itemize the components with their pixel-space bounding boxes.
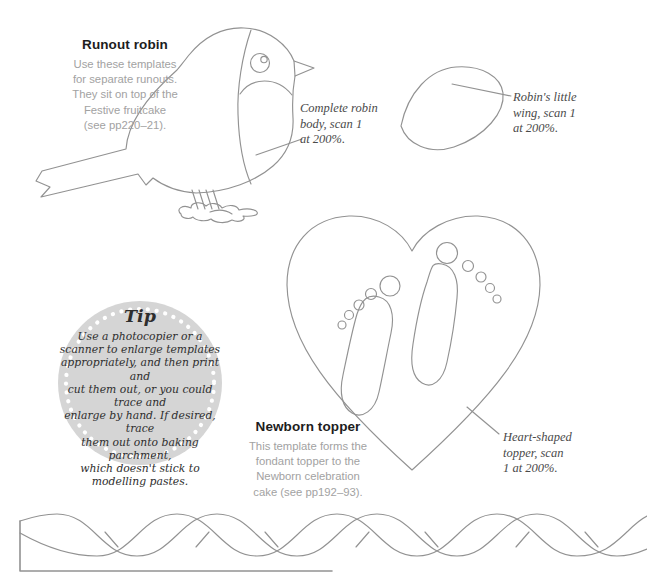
robin-eye	[251, 54, 270, 73]
rope-border-template	[20, 514, 647, 571]
baby-footprint-left	[338, 276, 400, 415]
caption-line: topper, scan	[503, 446, 593, 462]
description-line: Newborn celebration	[232, 469, 384, 484]
tip-line: them out onto baking parchment,	[52, 436, 228, 462]
description-line: (see pp220–21).	[50, 118, 200, 133]
caption-line: at 200%.	[300, 132, 410, 148]
robin-eye-highlight	[261, 56, 267, 62]
robin-beak-base-line	[294, 61, 295, 76]
baby-footprint-right	[412, 243, 501, 385]
caption-line: at 200%.	[513, 121, 603, 137]
leader-line-robin-body	[256, 139, 302, 155]
tip-line: scanner to enlarge templates	[52, 343, 228, 356]
caption-line: Heart-shaped	[503, 430, 593, 446]
tip-line: modelling pastes.	[52, 475, 228, 488]
tip-line: which doesn't stick to	[52, 462, 228, 475]
tip-title: Tip	[52, 306, 228, 326]
newborn-topper-description: This template forms the fondant topper t…	[232, 439, 384, 500]
wing-outline	[401, 67, 503, 150]
caption-line: body, scan 1	[300, 117, 410, 133]
runout-robin-heading: Runout robin	[50, 37, 200, 52]
description-line: cake (see pp192–93).	[232, 485, 384, 500]
tip-line: Use a photocopier or a	[52, 330, 228, 343]
caption-line: 1 at 200%.	[503, 461, 593, 477]
robin-wing-caption: Robin's little wing, scan 1 at 200%.	[513, 90, 603, 137]
tip-line: cut them out, or you could trace and	[52, 383, 228, 409]
caption-line: Robin's little	[513, 90, 603, 106]
description-line: This template forms the	[232, 439, 384, 454]
robin-face-divider-line	[238, 30, 251, 184]
newborn-topper-heading: Newborn topper	[232, 419, 384, 434]
description-line: Festive fruitcake	[50, 103, 200, 118]
robin-body-caption: Complete robin body, scan 1 at 200%.	[300, 101, 410, 148]
description-line: for separate runouts.	[50, 72, 200, 87]
description-line: They sit on top of the	[50, 87, 200, 102]
caption-line: wing, scan 1	[513, 106, 603, 122]
rope-strand-a	[20, 514, 647, 556]
caption-line: Complete robin	[300, 101, 410, 117]
tip-line: appropriately, and then print and	[52, 356, 228, 382]
leader-line-heart	[467, 407, 499, 434]
robin-wing-template	[401, 67, 511, 150]
rope-twist-marks	[105, 532, 598, 547]
template-page: Runout robin Use these templates for sep…	[0, 0, 647, 577]
robin-breast-arc	[240, 81, 292, 95]
description-line: Use these templates	[50, 57, 200, 72]
tip-box: Tip Use a photocopier or a scanner to en…	[52, 306, 228, 488]
description-line: fondant topper to the	[232, 454, 384, 469]
heart-topper-caption: Heart-shaped topper, scan 1 at 200%.	[503, 430, 593, 477]
tip-line: enlarge by hand. If desired, trace	[52, 409, 228, 435]
runout-robin-description: Use these templates for separate runouts…	[50, 57, 200, 133]
